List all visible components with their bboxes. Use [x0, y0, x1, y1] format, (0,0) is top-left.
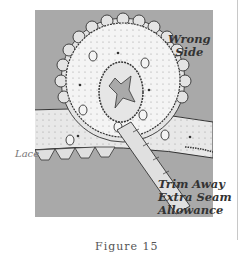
- trim-away-label: Trim Away Extra Seam Allowance: [158, 178, 232, 217]
- wrong-side-label: Wrong Side: [168, 33, 211, 59]
- wrong-side-label-line2: Side: [168, 46, 211, 59]
- lace-label: Lace: [15, 148, 39, 159]
- figure-caption: Figure 15: [95, 240, 159, 253]
- page-divider-line: [237, 0, 238, 240]
- trim-label-line3: Allowance: [158, 204, 232, 217]
